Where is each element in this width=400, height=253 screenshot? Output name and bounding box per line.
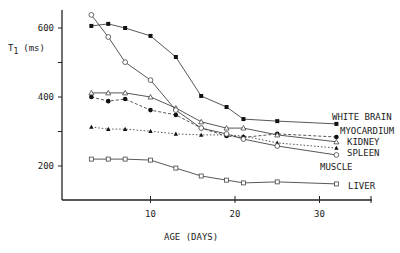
data-point-filled-square-marker — [199, 94, 203, 98]
data-point-filled-triangle-marker — [174, 132, 178, 136]
data-point-open-circle-marker — [173, 108, 178, 113]
data-point-filled-square-marker — [123, 26, 127, 30]
x-axis-label: AGE (DAYS) — [164, 232, 218, 242]
data-point-open-circle-marker — [199, 126, 204, 131]
data-point-filled-circle-marker — [106, 99, 111, 104]
data-point-filled-circle-marker — [174, 113, 179, 118]
data-point-open-circle-marker — [123, 60, 128, 65]
data-point-filled-square-marker — [174, 55, 178, 59]
series-line — [91, 159, 336, 184]
y-tick-label: 200 — [38, 161, 54, 171]
data-point-open-circle-marker — [334, 153, 339, 158]
data-point-filled-triangle-marker — [334, 146, 338, 150]
data-point-open-circle-marker — [148, 78, 153, 83]
data-point-filled-square-marker — [241, 117, 245, 121]
data-point-open-square-marker — [225, 178, 229, 182]
y-axis-label: T1(ms) — [8, 43, 45, 56]
data-point-open-square-marker — [334, 182, 338, 186]
t1-vs-age-chart: 200400600 102030 T1(ms) AGE (DAYS) WHITE… — [0, 0, 400, 253]
data-point-filled-circle-marker — [123, 97, 128, 102]
data-point-open-square-marker — [89, 157, 93, 161]
data-point-filled-square-marker — [275, 119, 279, 123]
data-point-open-square-marker — [106, 157, 110, 161]
series-liver — [89, 157, 338, 186]
data-point-open-circle-marker — [106, 35, 111, 40]
data-point-filled-triangle-marker — [89, 125, 93, 129]
data-point-open-circle-marker — [224, 132, 229, 137]
series-label: SPLEEN — [347, 148, 380, 158]
data-point-open-triangle-marker — [199, 119, 204, 124]
data-point-filled-triangle-marker — [148, 129, 152, 133]
series-label: LIVER — [348, 181, 376, 191]
x-tick-label: 30 — [314, 209, 325, 219]
series-white-brain — [89, 22, 338, 126]
data-point-filled-square-marker — [106, 22, 110, 26]
data-point-filled-circle-marker — [148, 108, 153, 113]
data-point-filled-square-marker — [149, 34, 153, 38]
data-point-open-circle-marker — [241, 137, 246, 142]
series-group — [89, 12, 339, 185]
series-label: MYOCARDIUM — [340, 126, 395, 136]
data-point-open-square-marker — [275, 180, 279, 184]
data-point-open-square-marker — [149, 158, 153, 162]
x-tick-label: 10 — [145, 209, 156, 219]
data-point-open-square-marker — [174, 166, 178, 170]
data-point-open-square-marker — [123, 157, 127, 161]
data-point-filled-circle-marker — [89, 95, 94, 100]
data-point-open-square-marker — [199, 174, 203, 178]
data-point-filled-square-marker — [225, 105, 229, 109]
series-label: KIDNEY — [347, 137, 380, 147]
data-point-filled-square-marker — [334, 122, 338, 126]
x-tick-label: 20 — [230, 209, 241, 219]
data-point-filled-square-marker — [89, 24, 93, 28]
y-axis-label-unit: (ms) — [23, 43, 45, 53]
y-tick-label: 400 — [38, 92, 54, 102]
data-point-open-circle-marker — [89, 12, 94, 17]
series-line — [91, 15, 336, 155]
series-line — [91, 24, 336, 124]
series-label: MUSCLE — [320, 162, 353, 172]
data-point-open-circle-marker — [275, 144, 280, 149]
series-muscle — [89, 12, 339, 157]
data-point-open-square-marker — [241, 181, 245, 185]
series-label: WHITE BRAIN — [332, 112, 392, 122]
y-tick-label: 600 — [38, 23, 54, 33]
y-axis-label-sub: 1 — [13, 47, 18, 56]
